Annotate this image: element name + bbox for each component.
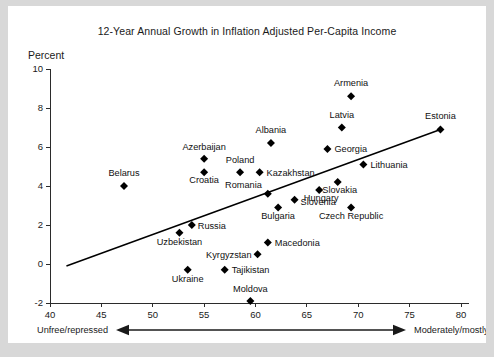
data-point-label: Moldova (233, 284, 269, 294)
data-point-marker (184, 266, 192, 274)
y-tick-label: 8 (38, 102, 43, 113)
data-point-marker (200, 155, 208, 163)
scatter-plot: -20246810404550556065707580 ArmeniaLatvi… (8, 6, 486, 343)
data-point-marker (254, 250, 262, 258)
arrow-head-right-icon (393, 325, 406, 335)
data-point-marker (120, 182, 128, 190)
y-tick-label: 6 (38, 141, 43, 152)
data-point-marker (246, 297, 254, 305)
data-point-label: Slovenia (301, 197, 337, 207)
footer-annotation: Unfree/repressedModerately/mostly free (37, 325, 486, 336)
data-point-label: Albania (256, 125, 288, 135)
x-tick-label: 50 (147, 309, 158, 320)
data-point-label: Kazakhstan (267, 168, 315, 178)
chart-figure: 12-Year Annual Growth in Inflation Adjus… (8, 6, 486, 343)
x-tick-label: 70 (353, 309, 364, 320)
data-point-marker (274, 203, 282, 211)
x-tick-label: 65 (302, 309, 313, 320)
data-point-label: Uzbekistan (157, 237, 202, 247)
data-point-label: Czech Republic (319, 211, 384, 221)
footer-right-label: Moderately/mostly free (414, 325, 486, 335)
data-point-label: Latvia (330, 110, 355, 120)
data-point-marker (323, 145, 331, 153)
data-point-marker (347, 203, 355, 211)
data-point-label: Estonia (425, 111, 457, 121)
x-tick-label: 55 (199, 309, 210, 320)
data-point-label: Armenia (334, 78, 369, 88)
data-point-label: Croatia (189, 175, 220, 185)
data-point-marker (175, 229, 183, 237)
regression-line (66, 129, 440, 266)
x-tick-label: 60 (250, 309, 261, 320)
x-tick-label: 75 (404, 309, 415, 320)
data-point-marker (359, 161, 367, 169)
data-point-label: Georgia (334, 144, 368, 154)
x-tick-label: 45 (96, 309, 107, 320)
data-point-label: Kyrgyzstan (206, 250, 251, 260)
data-point-marker (264, 239, 272, 247)
data-point-label: Romania (225, 180, 263, 190)
x-tick-label: 40 (45, 309, 56, 320)
data-point-label: Azerbaijan (182, 142, 225, 152)
data-point-marker (221, 266, 229, 274)
data-point-marker (291, 196, 299, 204)
data-points: ArmeniaLatviaEstoniaAlbaniaGeorgiaAzerba… (108, 78, 456, 305)
data-point-label: Ukraine (172, 274, 204, 284)
data-point-marker (338, 124, 346, 132)
data-point-label: Lithuania (370, 160, 408, 170)
x-tick-label: 80 (456, 309, 467, 320)
data-point-label: Macedonia (275, 238, 321, 248)
data-point-label: Bulgaria (261, 211, 296, 221)
data-point-marker (267, 139, 275, 147)
y-tick-label: -2 (35, 297, 43, 308)
data-point-marker (256, 168, 264, 176)
data-point-label: Tajikistan (232, 265, 270, 275)
data-point-marker (347, 92, 355, 100)
y-tick-label: 0 (38, 258, 43, 269)
data-point-label: Belarus (108, 168, 140, 178)
data-point-label: Russia (198, 221, 227, 231)
data-point-marker (236, 168, 244, 176)
data-point-marker (188, 221, 196, 229)
footer-left-label: Unfree/repressed (37, 325, 108, 335)
axes: -20246810404550556065707580 (32, 63, 469, 320)
data-point-label: Poland (226, 155, 255, 165)
arrow-head-left-icon (116, 325, 129, 335)
trend-line (66, 129, 440, 266)
y-tick-label: 10 (32, 63, 43, 74)
y-tick-label: 2 (38, 219, 43, 230)
data-point-marker (436, 125, 444, 133)
y-tick-label: 4 (38, 180, 43, 191)
